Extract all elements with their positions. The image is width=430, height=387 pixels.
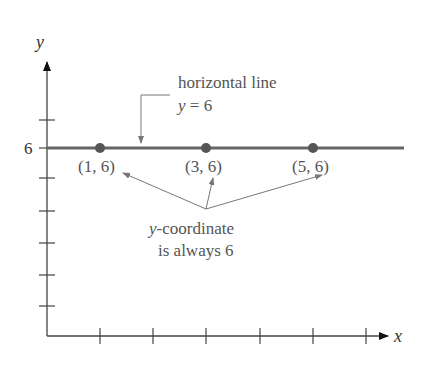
point-3-6: [201, 143, 211, 153]
point-label-1-6: (1, 6): [78, 157, 115, 176]
equation-label: y = 6: [176, 96, 212, 115]
line-callout-arrow: [141, 95, 170, 143]
y-axis: [39, 62, 55, 336]
point-label-3-6: (3, 6): [185, 157, 222, 176]
annotation-rest: -coordinate: [157, 219, 234, 238]
point-label-5-6: (5, 6): [292, 157, 329, 176]
point-1-6: [95, 143, 105, 153]
equation-var: y: [176, 96, 186, 115]
annotation-arrows: [123, 173, 322, 209]
annotation-line2: is always 6: [158, 241, 234, 260]
y-axis-label: y: [34, 32, 44, 52]
x-axis-label: x: [393, 326, 402, 346]
point-5-6: [308, 143, 318, 153]
y-tick-label-6: 6: [24, 139, 33, 158]
equation-rest: = 6: [186, 96, 213, 115]
annotation-var: y: [147, 219, 157, 238]
x-axis: [47, 328, 388, 344]
horizontal-line-label: horizontal line: [178, 73, 277, 92]
horizontal-line-diagram: y 6 x (1, 6) (3, 6) (5, 6) horizontal li…: [0, 0, 430, 387]
annotation-line1: y-coordinate: [147, 219, 234, 238]
